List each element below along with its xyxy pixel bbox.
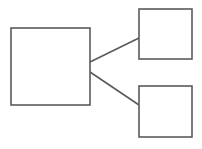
small-top-right-rectangle[interactable] — [139, 9, 192, 59]
connector-main-to-bottom-right — [90, 72, 139, 105]
diagram-canvas — [0, 0, 202, 149]
small-bottom-right-rectangle[interactable] — [139, 86, 192, 137]
large-left-rectangle[interactable] — [11, 28, 90, 105]
connector-main-to-top-right — [90, 38, 139, 62]
diagram-svg — [0, 0, 202, 149]
